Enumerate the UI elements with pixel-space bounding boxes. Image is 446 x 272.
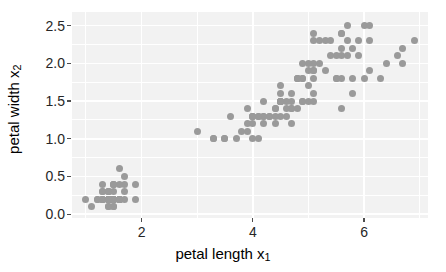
data-point: [82, 196, 89, 203]
data-point: [399, 60, 406, 67]
data-point: [310, 30, 317, 37]
y-axis-tick-label: 0.0: [46, 207, 65, 221]
data-point: [310, 90, 317, 97]
y-axis-tick-label: 1.5: [46, 94, 65, 108]
data-point: [105, 203, 112, 210]
data-point: [132, 196, 139, 203]
data-point: [244, 105, 251, 112]
scatter-plot-figure: 0.00.51.01.52.02.5246 petal width x2 pet…: [0, 0, 446, 272]
gridline-minor-vertical: [197, 12, 198, 218]
data-point: [294, 75, 301, 82]
data-point: [322, 67, 329, 74]
data-point: [105, 188, 112, 195]
data-point: [283, 105, 290, 112]
data-point: [338, 52, 345, 59]
data-point: [344, 37, 351, 44]
data-point: [132, 181, 139, 188]
data-point: [394, 52, 401, 59]
data-point: [399, 45, 406, 52]
x-axis-tick-label: 6: [360, 225, 368, 239]
y-axis-tick-mark: [67, 63, 71, 64]
gridline-minor-horizontal: [72, 44, 428, 45]
data-point: [288, 120, 295, 127]
data-point: [288, 90, 295, 97]
gridline-minor-vertical: [419, 12, 420, 218]
gridline-minor-vertical: [308, 12, 309, 218]
data-point: [349, 45, 356, 52]
gridline-major-vertical: [141, 12, 143, 218]
gridline-major-horizontal: [72, 63, 428, 65]
y-axis-tick-mark: [67, 214, 71, 215]
data-point: [411, 37, 418, 44]
x-axis-tick-mark: [252, 218, 253, 222]
gridline-minor-horizontal: [72, 157, 428, 158]
y-axis-tick-mark: [67, 176, 71, 177]
gridline-major-horizontal: [72, 25, 428, 27]
gridline-major-vertical: [363, 12, 365, 218]
y-axis-title-subscript: 2: [11, 64, 23, 70]
data-point: [327, 52, 334, 59]
data-point: [361, 75, 368, 82]
data-point: [355, 52, 362, 59]
data-point: [194, 128, 201, 135]
data-point: [283, 113, 290, 120]
data-point: [210, 135, 217, 142]
gridline-major-horizontal: [72, 100, 428, 102]
data-point: [255, 135, 262, 142]
y-axis-tick-mark: [67, 25, 71, 26]
data-point: [99, 181, 106, 188]
data-point: [260, 98, 267, 105]
data-point: [277, 82, 284, 89]
data-point: [316, 60, 323, 67]
data-point: [349, 90, 356, 97]
data-point: [116, 165, 123, 172]
data-point: [233, 135, 240, 142]
data-point: [310, 98, 317, 105]
data-point: [260, 120, 267, 127]
x-axis-title-subscript: 1: [265, 251, 271, 263]
data-point: [121, 173, 128, 180]
gridline-major-horizontal: [72, 213, 428, 215]
y-axis-tick-mark: [67, 100, 71, 101]
data-point: [266, 113, 273, 120]
data-point: [294, 105, 301, 112]
data-point: [288, 98, 295, 105]
data-point: [366, 22, 373, 29]
data-point: [383, 60, 390, 67]
data-point: [338, 45, 345, 52]
plot-panel: [72, 12, 428, 218]
data-point: [110, 181, 117, 188]
x-axis-tick-label: 4: [249, 225, 257, 239]
y-axis-title: petal width x2: [0, 0, 28, 218]
x-axis-title: petal length x1: [0, 245, 446, 263]
x-axis-title-text: petal length x: [175, 245, 264, 262]
y-axis-tick-label: 1.0: [46, 132, 65, 146]
data-point: [272, 105, 279, 112]
gridline-minor-horizontal: [72, 82, 428, 83]
data-point: [344, 22, 351, 29]
data-point: [272, 120, 279, 127]
data-point: [255, 113, 262, 120]
y-axis-title-text: petal width x: [5, 70, 22, 153]
data-point: [277, 98, 284, 105]
data-point: [249, 120, 256, 127]
data-point: [238, 128, 245, 135]
y-axis-tick-label: 0.5: [46, 169, 65, 183]
gridline-minor-vertical: [85, 12, 86, 218]
data-point: [305, 82, 312, 89]
y-axis-tick-mark: [67, 138, 71, 139]
y-axis-tick-label: 2.0: [46, 56, 65, 70]
data-point: [105, 196, 112, 203]
x-axis-tick-label: 2: [138, 225, 146, 239]
data-point: [277, 90, 284, 97]
data-point: [333, 75, 340, 82]
data-point: [366, 67, 373, 74]
x-axis-tick-mark: [141, 218, 142, 222]
x-axis-tick-mark: [363, 218, 364, 222]
data-point: [221, 135, 228, 142]
data-point: [227, 113, 234, 120]
y-axis-tick-label: 2.5: [46, 19, 65, 33]
data-point: [88, 203, 95, 210]
data-point: [338, 105, 345, 112]
data-point: [338, 30, 345, 37]
